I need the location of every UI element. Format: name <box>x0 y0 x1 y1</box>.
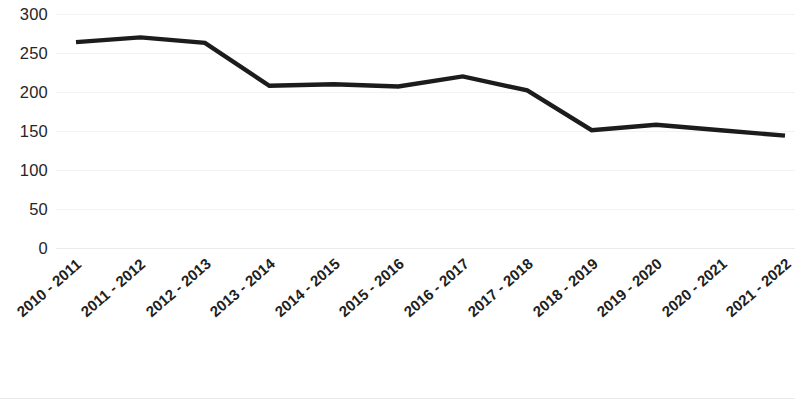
x-tick-label: 2021 - 2022 <box>723 255 793 319</box>
data-series-line <box>76 37 785 135</box>
x-tick-label: 2015 - 2016 <box>336 255 406 319</box>
x-tick-label: 2020 - 2021 <box>659 255 729 319</box>
x-tick-label: 2011 - 2012 <box>78 256 148 319</box>
x-tick-label: 2017 - 2018 <box>465 255 535 319</box>
line-chart: 050100150200250300 2010 - 20112011 - 201… <box>0 0 795 403</box>
series-plot <box>56 0 795 260</box>
bottom-divider <box>0 398 795 399</box>
y-tick-label: 150 <box>0 123 48 140</box>
x-tick-label: 2010 - 2011 <box>14 256 84 319</box>
x-tick-label: 2013 - 2014 <box>207 255 277 319</box>
x-tick-label: 2019 - 2020 <box>594 255 664 319</box>
x-tick-label: 2014 - 2015 <box>272 255 342 319</box>
x-tick-label: 2012 - 2013 <box>143 255 213 319</box>
y-tick-label: 100 <box>0 162 48 179</box>
x-tick-label: 2016 - 2017 <box>401 255 471 319</box>
gridlines <box>56 15 795 249</box>
x-tick-label: 2018 - 2019 <box>530 255 600 319</box>
plot-area <box>56 0 795 260</box>
x-axis: 2010 - 20112011 - 20122012 - 20132013 - … <box>0 260 795 403</box>
y-tick-label: 300 <box>0 6 48 23</box>
y-tick-label: 250 <box>0 45 48 62</box>
y-tick-label: 200 <box>0 84 48 101</box>
y-tick-label: 0 <box>0 240 48 257</box>
y-tick-label: 50 <box>0 201 48 218</box>
